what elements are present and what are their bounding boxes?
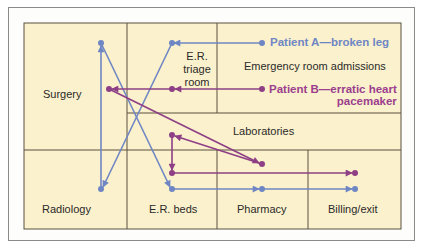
patient-a-label: Patient A—broken leg: [270, 36, 389, 48]
room-label-pharmacy: Pharmacy: [237, 203, 287, 216]
room-label-billing-exit: Billing/exit: [328, 203, 378, 216]
room-label-radiology: Radiology: [42, 203, 91, 216]
patient-b-label: Patient B—erratic heart pacemaker: [269, 83, 397, 107]
room-label-emergency-admissions: Emergency room admissions: [244, 60, 386, 73]
er-triage-line-3: room: [175, 76, 219, 89]
er-triage-line-1: E.R.: [175, 50, 219, 63]
room-label-laboratories: Laboratories: [233, 125, 294, 138]
patient-b-label-line-1: Patient B—erratic heart: [269, 83, 397, 95]
room-label-er-beds: E.R. beds: [149, 203, 197, 216]
patient-b-label-line-2: pacemaker: [269, 95, 397, 107]
room-label-surgery: Surgery: [43, 88, 82, 101]
er-triage-line-2: triage: [175, 63, 219, 76]
room-label-er-triage: E.R. triage room: [175, 50, 219, 89]
